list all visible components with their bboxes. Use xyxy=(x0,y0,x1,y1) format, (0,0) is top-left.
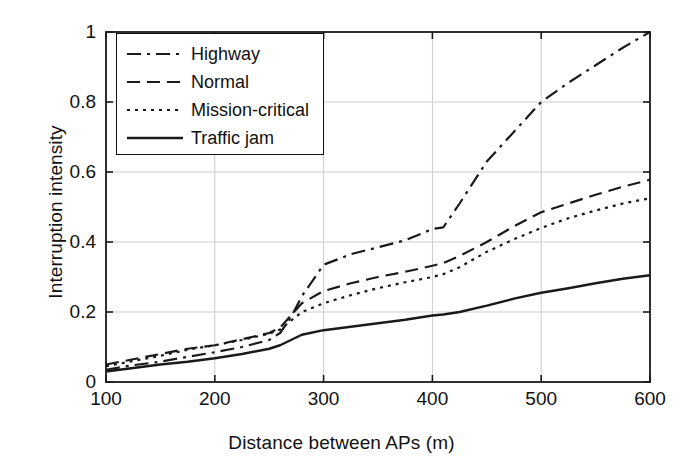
y-axis-label: Interruption intensity xyxy=(45,125,67,298)
series-line-normal xyxy=(106,180,650,365)
x-tick-label-500: 500 xyxy=(506,388,576,410)
series-line-traffic-jam xyxy=(106,275,650,371)
legend-line-sample-icon xyxy=(126,129,184,147)
legend-line-sample-icon xyxy=(126,45,184,63)
x-tick-label-400: 400 xyxy=(397,388,467,410)
legend-item-normal: Normal xyxy=(117,68,323,96)
x-tick-label-300: 300 xyxy=(289,388,359,410)
legend-line-sample-icon xyxy=(126,101,184,119)
legend-item-mission-critical: Mission-critical xyxy=(117,96,323,124)
series-line-mission-critical xyxy=(106,198,650,366)
x-axis-label: Distance between APs (m) xyxy=(0,432,683,454)
x-tick-label-200: 200 xyxy=(180,388,250,410)
legend-item-highway: Highway xyxy=(117,40,323,68)
x-tick-label-600: 600 xyxy=(615,388,683,410)
legend-item-label: Traffic jam xyxy=(191,128,274,149)
legend-item-label: Mission-critical xyxy=(191,100,309,121)
legend-line-sample-icon xyxy=(126,73,184,91)
legend: HighwayNormalMission-criticalTraffic jam xyxy=(116,33,324,155)
legend-item-label: Normal xyxy=(191,72,249,93)
legend-item-traffic-jam: Traffic jam xyxy=(117,124,323,152)
chart-figure: 100200300400500600 00.20.40.60.81 Distan… xyxy=(0,0,683,473)
legend-item-label: Highway xyxy=(191,44,260,65)
y-tick-label-1: 1 xyxy=(34,21,96,43)
y-axis-label-wrapper: Interruption intensity xyxy=(45,42,69,382)
